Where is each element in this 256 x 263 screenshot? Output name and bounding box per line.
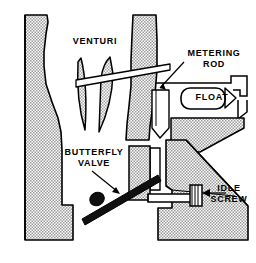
venturi-left-element (78, 58, 86, 130)
carburetor-diagram: VENTURI METERING ROD FLOAT BUTTERFLY VAL… (0, 0, 256, 263)
metering-rod-block (152, 90, 169, 138)
venturi-right-element (99, 57, 113, 132)
float-body (181, 88, 225, 109)
lower-right-body (158, 140, 248, 240)
carburetor-drawing (0, 0, 256, 263)
left-body-wall (25, 15, 73, 240)
butterfly-valve-callout-line (92, 171, 120, 194)
